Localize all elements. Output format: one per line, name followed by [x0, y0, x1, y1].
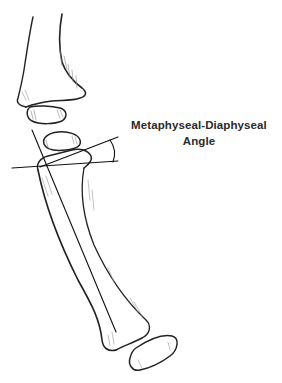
annotation-label-line1: Metaphyseal-Diaphyseal — [124, 119, 274, 131]
metaphyseal-line — [40, 137, 118, 167]
tibia-shape — [37, 149, 149, 350]
angle-arc — [110, 140, 115, 162]
femur-shape — [17, 14, 85, 107]
perpendicular-line — [12, 161, 118, 168]
tibial-axis-line — [32, 130, 116, 332]
measurement-lines — [12, 130, 118, 332]
femoral-epiphysis — [27, 106, 66, 124]
annotation-label-line2: Angle — [124, 135, 274, 147]
tibial-epiphysis — [44, 132, 81, 151]
bone-diagram — [0, 0, 282, 383]
